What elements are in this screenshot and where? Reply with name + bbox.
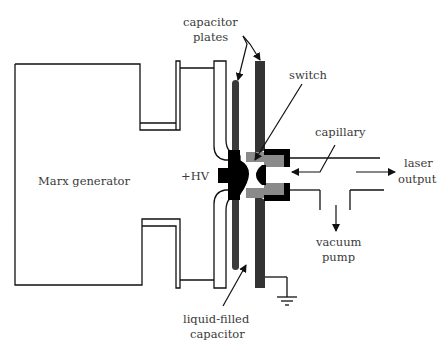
marx-generator-label: Marx generator xyxy=(38,174,131,188)
ground-symbol xyxy=(265,277,297,305)
hv-label: +HV xyxy=(181,169,210,183)
capacitor-plates-label-2: plates xyxy=(193,30,228,44)
capacitor-plates-label-1: capacitor xyxy=(183,15,238,29)
laser-output-label-1: laser xyxy=(404,156,433,170)
vacuum-pump-label-1: vacuum xyxy=(315,235,362,249)
diagram-canvas: Marx generator xyxy=(0,0,448,353)
liquid-capacitor-label-2: capacitor xyxy=(190,327,245,341)
plate-arrow-inner xyxy=(238,36,247,80)
switch-assembly xyxy=(218,149,290,201)
capillary-label: capillary xyxy=(315,125,366,139)
switch-label: switch xyxy=(289,68,327,82)
liquid-capacitor-label-1: liquid-filled xyxy=(183,312,250,326)
vacuum-pump-label-2: pump xyxy=(322,250,355,264)
output-tubing xyxy=(290,158,384,210)
laser-output-label-2: output xyxy=(398,172,437,186)
